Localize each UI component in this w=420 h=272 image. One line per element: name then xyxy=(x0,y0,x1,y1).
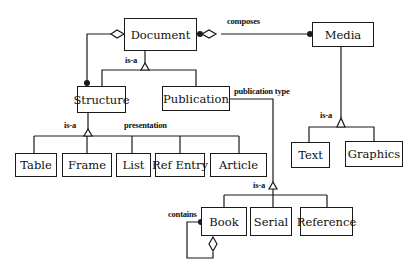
book-contains-diamond xyxy=(209,237,217,251)
label-contains: contains xyxy=(168,209,197,219)
label-media-is-a: is-a xyxy=(320,110,332,120)
object-model-diagram: Document Media Structure Publication Tab… xyxy=(0,0,420,272)
node-reference: Reference xyxy=(300,207,353,236)
node-structure: Structure xyxy=(77,86,126,113)
label-presentation: presentation xyxy=(124,120,167,130)
document-structure-diamond xyxy=(111,30,124,38)
node-text: Text xyxy=(291,142,330,168)
node-ref-entry: Ref Entry xyxy=(155,153,205,177)
media-isa-bar xyxy=(309,127,374,142)
label-structure-is-a: is-a xyxy=(64,120,76,130)
document-isa-triangle xyxy=(141,63,149,70)
node-list: List xyxy=(116,153,151,177)
publication-isa-triangle xyxy=(269,182,277,189)
node-graphics: Graphics xyxy=(345,141,403,167)
media-isa-triangle xyxy=(337,118,345,127)
node-media: Media xyxy=(312,22,374,47)
structure-isa-triangle xyxy=(84,129,92,136)
label-publication-is-a: is-a xyxy=(253,180,265,190)
node-table: Table xyxy=(15,153,57,177)
label-document-is-a: is-a xyxy=(125,55,137,65)
node-frame: Frame xyxy=(62,153,112,177)
node-document: Document xyxy=(124,18,197,51)
label-composes: composes xyxy=(227,16,260,26)
composes-diamond xyxy=(202,30,216,38)
document-isa-bar xyxy=(102,70,196,86)
label-publication-type: publication type xyxy=(234,86,290,96)
node-serial: Serial xyxy=(250,207,292,236)
node-article: Article xyxy=(210,153,267,177)
node-book: Book xyxy=(201,207,247,236)
node-publication: Publication xyxy=(162,86,230,111)
document-composes-dot xyxy=(197,31,203,37)
document-structure-connector xyxy=(87,34,111,82)
